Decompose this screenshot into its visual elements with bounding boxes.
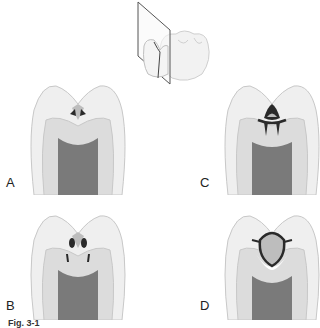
panel-label-a: A (6, 175, 15, 190)
figure-caption: Fig. 3-1 (8, 318, 40, 328)
tooth-panel-a (28, 80, 128, 195)
panel-label-d: D (200, 298, 209, 313)
tooth-panel-c (222, 80, 320, 195)
tooth-panel-b (28, 210, 128, 320)
panel-label-c: C (200, 175, 209, 190)
panel-label-b: B (6, 298, 15, 313)
overview-tooth-section-plane (128, 0, 218, 85)
tooth-panel-d (222, 210, 320, 320)
